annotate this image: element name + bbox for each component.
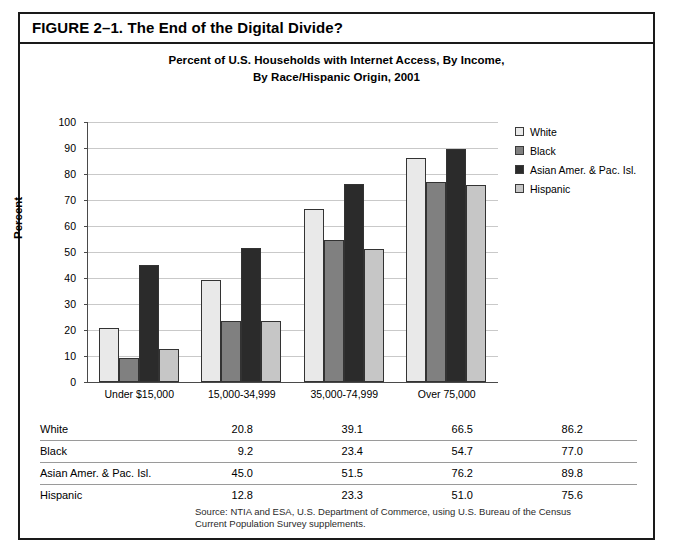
bar-group bbox=[406, 122, 487, 382]
table-cell: 76.2 bbox=[415, 467, 473, 479]
bar bbox=[466, 185, 486, 382]
figure-frame: FIGURE 2–1. The End of the Digital Divid… bbox=[18, 12, 655, 540]
table-cell: 23.4 bbox=[305, 445, 363, 457]
legend-item-label: Hispanic bbox=[530, 183, 570, 195]
plot-area: 0102030405060708090100 Under $15,00015,0… bbox=[87, 122, 498, 383]
table-cell: 66.5 bbox=[415, 423, 473, 435]
y-axis-tick bbox=[84, 148, 88, 149]
bar bbox=[99, 328, 119, 382]
table-row: White20.839.166.586.2 bbox=[40, 419, 637, 441]
legend-item: White bbox=[515, 122, 636, 141]
table-row: Hispanic12.823.351.075.6 bbox=[40, 485, 637, 506]
data-table: White20.839.166.586.2Black9.223.454.777.… bbox=[40, 419, 637, 506]
table-cell: 75.6 bbox=[525, 489, 583, 501]
y-axis-tick-label: 40 bbox=[48, 273, 76, 283]
bar bbox=[344, 184, 364, 382]
bar bbox=[201, 280, 221, 382]
y-axis-tick-label: 20 bbox=[48, 325, 76, 335]
table-cell: 12.8 bbox=[195, 489, 253, 501]
legend-item: Black bbox=[515, 141, 636, 160]
bar bbox=[119, 358, 139, 382]
x-axis-tick-label: Over 75,000 bbox=[382, 388, 512, 400]
y-axis-tick bbox=[84, 122, 88, 123]
bar bbox=[261, 321, 281, 382]
bar-group bbox=[201, 122, 282, 382]
table-row-label: Black bbox=[40, 445, 67, 457]
y-axis-tick-label: 10 bbox=[48, 351, 76, 361]
y-axis-tick bbox=[84, 304, 88, 305]
table-cell: 45.0 bbox=[195, 467, 253, 479]
bar bbox=[426, 182, 446, 382]
y-axis-tick bbox=[84, 174, 88, 175]
y-axis-title: Percent bbox=[12, 197, 24, 239]
table-cell: 51.0 bbox=[415, 489, 473, 501]
bar bbox=[139, 265, 159, 382]
bar bbox=[364, 249, 384, 382]
table-cell: 39.1 bbox=[305, 423, 363, 435]
y-axis-tick-label: 100 bbox=[48, 117, 76, 127]
table-cell: 9.2 bbox=[195, 445, 253, 457]
bar bbox=[446, 149, 466, 382]
legend-item: Hispanic bbox=[515, 179, 636, 198]
y-axis-tick-label: 60 bbox=[48, 221, 76, 231]
table-cell: 20.8 bbox=[195, 423, 253, 435]
y-axis-tick bbox=[84, 226, 88, 227]
legend-swatch-icon bbox=[515, 184, 524, 193]
source-line-1: Source: NTIA and ESA, U.S. Department of… bbox=[195, 506, 615, 518]
chart-subtitle: Percent of U.S. Households with Internet… bbox=[20, 52, 653, 86]
bar bbox=[159, 349, 179, 382]
table-row-label: White bbox=[40, 423, 68, 435]
chart-region: Percent 0102030405060708090100 Under $15… bbox=[20, 109, 657, 419]
y-axis-tick-label: 0 bbox=[48, 377, 76, 387]
table-row-label: Asian Amer. & Pac. Isl. bbox=[40, 467, 151, 479]
table-row: Black9.223.454.777.0 bbox=[40, 441, 637, 463]
chart-subtitle-line-2: By Race/Hispanic Origin, 2001 bbox=[20, 69, 653, 86]
source-line-2: Current Population Survey supplements. bbox=[195, 518, 615, 530]
y-axis-tick bbox=[84, 252, 88, 253]
y-axis-tick-label: 30 bbox=[48, 299, 76, 309]
legend-item-label: White bbox=[530, 126, 557, 138]
table-cell: 51.5 bbox=[305, 467, 363, 479]
bar bbox=[406, 158, 426, 382]
bar bbox=[241, 248, 261, 382]
y-axis-tick-label: 90 bbox=[48, 143, 76, 153]
legend-swatch-icon bbox=[515, 146, 524, 155]
y-axis-tick bbox=[84, 382, 88, 383]
legend-item-label: Asian Amer. & Pac. Isl. bbox=[530, 164, 636, 176]
bar-group bbox=[99, 122, 180, 382]
y-axis-tick bbox=[84, 278, 88, 279]
figure-title-bar: FIGURE 2–1. The End of the Digital Divid… bbox=[20, 14, 653, 44]
legend-swatch-icon bbox=[515, 165, 524, 174]
bar bbox=[324, 240, 344, 382]
table-cell: 77.0 bbox=[525, 445, 583, 457]
table-cell: 23.3 bbox=[305, 489, 363, 501]
table-cell: 89.8 bbox=[525, 467, 583, 479]
table-row: Asian Amer. & Pac. Isl.45.051.576.289.8 bbox=[40, 463, 637, 485]
chart-subtitle-line-1: Percent of U.S. Households with Internet… bbox=[20, 52, 653, 69]
y-axis-tick-label: 70 bbox=[48, 195, 76, 205]
bar bbox=[304, 209, 324, 382]
y-axis-tick bbox=[84, 200, 88, 201]
chart-legend: WhiteBlackAsian Amer. & Pac. Isl.Hispani… bbox=[515, 122, 636, 198]
legend-swatch-icon bbox=[515, 127, 524, 136]
page-title: FIGURE 2–1. The End of the Digital Divid… bbox=[32, 19, 343, 36]
source-note: Source: NTIA and ESA, U.S. Department of… bbox=[195, 506, 615, 530]
y-axis-tick bbox=[84, 330, 88, 331]
legend-item-label: Black bbox=[530, 145, 556, 157]
table-cell: 86.2 bbox=[525, 423, 583, 435]
y-axis-tick bbox=[84, 356, 88, 357]
bar bbox=[221, 321, 241, 382]
legend-item: Asian Amer. & Pac. Isl. bbox=[515, 160, 636, 179]
table-row-label: Hispanic bbox=[40, 489, 82, 501]
bar-group bbox=[304, 122, 385, 382]
y-axis-tick-label: 50 bbox=[48, 247, 76, 257]
table-cell: 54.7 bbox=[415, 445, 473, 457]
y-axis-tick-label: 80 bbox=[48, 169, 76, 179]
